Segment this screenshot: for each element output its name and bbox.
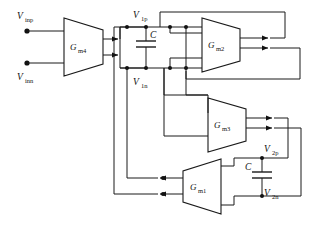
vinn-label-main: V bbox=[17, 72, 24, 82]
gm4-label-sub: m4 bbox=[78, 47, 87, 54]
gm4-to-v1n-wire bbox=[120, 55, 146, 68]
gm4-label-main: G bbox=[70, 42, 77, 52]
gm1-out-p-dot bbox=[161, 176, 165, 180]
label-vinn: V inn bbox=[17, 72, 34, 84]
gm3-out-n-to-v2n bbox=[262, 128, 301, 196]
vinp-label-sub: inp bbox=[25, 16, 33, 23]
v2p-label-main: V bbox=[264, 144, 271, 154]
v2p-label-sub: 2p bbox=[272, 149, 279, 156]
gm1-out-n-dot bbox=[161, 192, 165, 196]
vinn-label-sub: inn bbox=[25, 77, 34, 84]
gm3-output-routing bbox=[262, 118, 301, 196]
gm2-label-sub: m2 bbox=[216, 45, 224, 52]
v1p-label-sub: 1p bbox=[141, 15, 148, 22]
gm3-label-main: G bbox=[214, 120, 221, 130]
label-v1p: V 1p bbox=[133, 10, 148, 22]
label-vinp: V inp bbox=[17, 11, 33, 23]
label-v2p: V 2p bbox=[264, 144, 279, 156]
v1p-junction-a bbox=[125, 25, 129, 29]
label-v1n: V 1n bbox=[133, 77, 148, 89]
c2-label: C bbox=[245, 162, 252, 172]
c1-label: C bbox=[150, 30, 157, 40]
gm1-label-sub: m1 bbox=[198, 187, 206, 194]
input-terminal-vinp bbox=[24, 28, 64, 33]
vinp-label-main: V bbox=[17, 11, 24, 21]
v2n-label-sub: 2n bbox=[272, 193, 279, 200]
input-terminal-vinn bbox=[24, 60, 64, 65]
v2p-junction bbox=[260, 156, 264, 160]
schematic-svg: V inp V inn G m4 G m2 G m3 G m1 bbox=[0, 0, 314, 232]
rail-v1n bbox=[120, 66, 214, 70]
gm1-in-n-wire bbox=[221, 196, 262, 205]
gm1-input-routing bbox=[221, 158, 262, 205]
gm1-out-n-return bbox=[114, 27, 158, 194]
gm1-label-main: G bbox=[190, 182, 197, 192]
circuit-diagram-canvas: V inp V inn G m4 G m2 G m3 G m1 bbox=[0, 0, 314, 232]
gm3-label-sub: m3 bbox=[222, 125, 230, 132]
v1n-label-main: V bbox=[133, 77, 140, 87]
label-v2n: V 2n bbox=[264, 188, 279, 200]
gm2-label-main: G bbox=[208, 40, 215, 50]
v1n-label-sub: 1n bbox=[141, 82, 148, 89]
gm1-in-p-wire bbox=[221, 158, 262, 166]
v1p-label-main: V bbox=[133, 10, 140, 20]
gm4-to-v1p-wire bbox=[120, 27, 146, 39]
